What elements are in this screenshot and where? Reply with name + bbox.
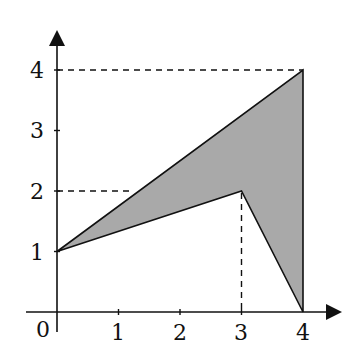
- y-label-4: 4: [30, 58, 44, 83]
- x-label-2: 2: [173, 320, 187, 345]
- x-axis-arrow-icon: [326, 304, 342, 320]
- coordinate-diagram: 0 1 2 3 4 1 2 3 4: [0, 0, 345, 348]
- x-label-3: 3: [234, 320, 248, 345]
- y-label-1: 1: [30, 240, 44, 265]
- y-axis-arrow-icon: [49, 30, 65, 46]
- y-label-2: 2: [30, 179, 44, 204]
- y-label-3: 3: [30, 118, 44, 143]
- x-label-0: 0: [36, 317, 50, 342]
- x-label-4: 4: [296, 320, 310, 345]
- x-label-1: 1: [111, 320, 125, 345]
